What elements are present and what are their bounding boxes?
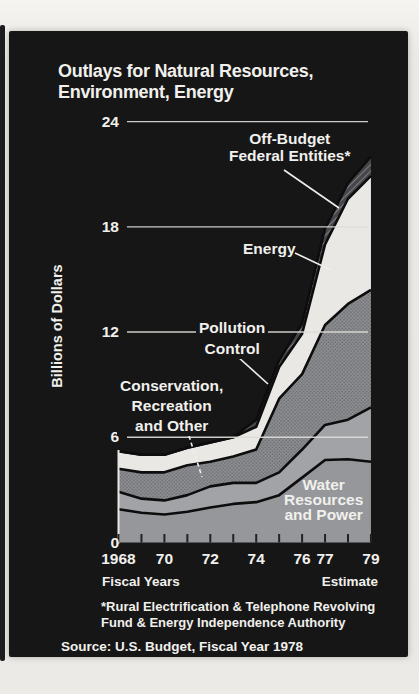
chart-title-line2: Environment, Energy [58,82,313,103]
footnote: *Rural Electrification & Telephone Revol… [101,599,375,630]
y-tick-label-12: 12 [79,322,119,342]
x-tick-label-79: 79 [349,550,393,568]
x-tick-label-74: 74 [234,550,278,568]
callout-label-line: Pollution [199,317,265,338]
callout-label-line: Federal Entities* [229,147,350,164]
callout-label-line: Off-Budget [229,130,350,147]
chart-title: Outlays for Natural Resources, Environme… [58,61,313,103]
footnote-line2: Fund & Energy Independence Authority [101,615,375,631]
x-tick-label-77: 77 [303,550,347,568]
page-gutter-strip [0,25,5,661]
callout-label-conservation: Conservation,Recreationand Other [117,376,226,436]
callout-label-line: Control [199,338,265,359]
callout-label-line: Energy [243,240,296,257]
callout-label-energy: Energy [243,240,296,257]
y-axis-title: Billions of Dollars [49,246,65,406]
y-tick-label-18: 18 [79,217,119,237]
callout-label-pollution: PollutionControl [196,317,268,359]
callout-label-line: Water [284,477,363,492]
callout-label-line: and Other [120,416,223,436]
y-tick-label-6: 6 [79,427,119,447]
x-tick-label-70: 70 [142,550,186,568]
chart-title-line1: Outlays for Natural Resources, [58,61,313,82]
footnote-line1: *Rural Electrification & Telephone Revol… [101,599,375,615]
book-page: Outlays for Natural Resources, Environme… [0,0,419,694]
source-note: Source: U.S. Budget, Fiscal Year 1978 [61,639,303,654]
x-tick-label-72: 72 [188,550,232,568]
x-tick-label-1968: 1968 [97,550,141,568]
estimate-label: Estimate [322,574,378,589]
fiscal-years-label: Fiscal Years [102,574,180,589]
callout-label-line: Resources [284,492,363,507]
callout-label-line: and Power [284,507,363,522]
callout-label-line: Recreation [120,396,223,416]
y-tick-label-24: 24 [79,112,119,132]
callout-label-water: WaterResourcesand Power [284,477,363,522]
callout-label-line: Conservation, [120,376,223,396]
callout-label-off-budget: Off-BudgetFederal Entities* [229,130,350,164]
